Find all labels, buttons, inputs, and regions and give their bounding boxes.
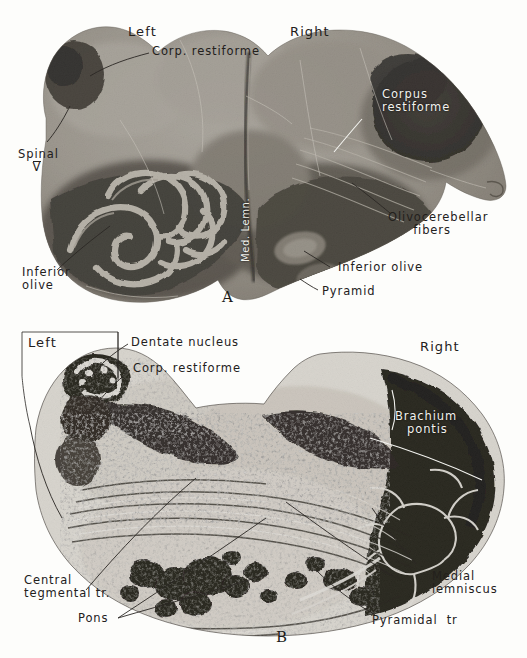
- label-inferior-olive-right: Inferior olive: [338, 261, 423, 274]
- orientation-label-left-b: Left: [28, 336, 57, 351]
- label-olivocerebellar-fibers: Olivocerebellar fibers: [388, 211, 488, 237]
- label-inferior-olive-left-line1: Inferior: [22, 266, 71, 279]
- label-corpus-restiforme-right: Corpus restiforme: [382, 88, 450, 114]
- label-spinal-v: Spinal V: [18, 148, 59, 174]
- label-medial-lemniscus-line2: lemniscus: [432, 583, 498, 596]
- label-central-tegmental-tr-line2: tegmental tr.: [24, 587, 110, 600]
- label-medial-lemniscus-line1: Medial: [432, 570, 498, 583]
- label-olivocerebellar-fibers-line1: Olivocerebellar: [388, 211, 488, 224]
- figure-plate: Left Right Corp. restiforme Spinal V Inf…: [0, 0, 527, 658]
- label-pyramidal-tr: Pyramidal tr: [372, 614, 458, 627]
- label-med-lemn: Med. Lemn.: [240, 198, 251, 262]
- orientation-label-right-b: Right: [420, 340, 460, 355]
- label-corpus-restiforme-right-line1: Corpus: [382, 88, 450, 101]
- label-central-tegmental-tr-line1: Central: [24, 574, 110, 587]
- label-olivocerebellar-fibers-line2: fibers: [388, 224, 476, 237]
- label-spinal-v-line2: V: [18, 161, 56, 174]
- label-brachium-pontis: Brachium pontis: [395, 410, 457, 436]
- label-brachium-pontis-line1: Brachium: [395, 410, 457, 423]
- orientation-label-left-a: Left: [128, 25, 157, 40]
- label-medial-lemniscus: Medial lemniscus: [432, 570, 498, 596]
- label-inferior-olive-left: Inferior olive: [22, 266, 71, 292]
- label-central-tegmental-tr: Central tegmental tr.: [24, 574, 110, 600]
- panel-b-histology-image: [0, 318, 527, 658]
- label-pyramid: Pyramid: [322, 285, 376, 298]
- label-corpus-restiforme-right-line2: restiforme: [382, 101, 450, 114]
- label-spinal-v-line1: Spinal: [18, 148, 59, 161]
- label-corp-restiforme-b: Corp. restiforme: [133, 362, 241, 375]
- panel-b-pons-section: Left Right Dentate nucleus Corp. restifo…: [0, 318, 527, 658]
- label-corp-restiforme-left: Corp. restiforme: [152, 45, 260, 58]
- label-pons: Pons: [78, 612, 108, 625]
- panel-letter-a: A: [222, 288, 233, 306]
- label-brachium-pontis-line2: pontis: [395, 423, 457, 436]
- label-dentate-nucleus: Dentate nucleus: [131, 336, 239, 349]
- label-inferior-olive-left-line2: olive: [22, 279, 71, 292]
- orientation-label-right-a: Right: [290, 25, 330, 40]
- panel-a-histology-image: [0, 0, 527, 315]
- panel-letter-b: B: [276, 628, 287, 646]
- panel-a-medulla-section: Left Right Corp. restiforme Spinal V Inf…: [0, 0, 527, 315]
